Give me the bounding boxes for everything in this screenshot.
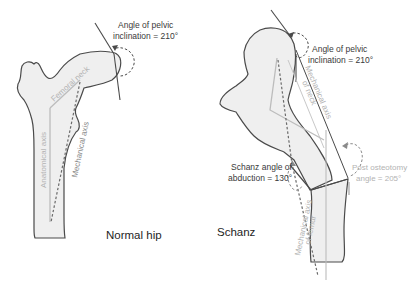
normal-pelvic-angle-label-line1: Angle of pelvic [118, 20, 174, 30]
schanz-pelvic-angle-label-line2: inclination = 210° [308, 55, 373, 65]
normal-hip-panel: Angle of pelvic inclination = 210° Femor… [17, 20, 178, 241]
normal-pelvic-angle-label-line2: inclination = 210° [113, 31, 178, 41]
schanz-post-arc-arrowhead-icon [342, 142, 348, 149]
schanz-pelvic-angle-label-line1: Angle of pelvic [312, 44, 368, 54]
schanz-caption: Schanz [217, 226, 256, 238]
schanz-abduction-label-line1: Schanz angle of [231, 162, 293, 172]
schanz-post-osteotomy-label-line1: Post osteotomy [352, 163, 407, 172]
normal-pelvic-tangent-line [95, 23, 114, 54]
hip-diagram: Angle of pelvic inclination = 210° Femor… [0, 0, 418, 289]
schanz-abduction-label-line2: abduction = 130° [228, 173, 292, 183]
schanz-post-osteotomy-label-line2: angle = 205° [356, 174, 401, 183]
normal-anatomical-axis-label: Anatomical axis [39, 132, 48, 188]
schanz-panel: Angle of pelvic inclination = 210° Mecha… [217, 10, 407, 280]
normal-hip-caption: Normal hip [106, 229, 162, 241]
